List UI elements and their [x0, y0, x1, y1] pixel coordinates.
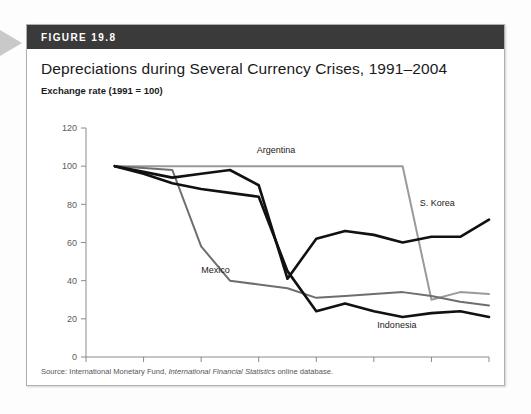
series-label-s-korea: S. Korea	[420, 198, 455, 208]
chart-plot-area: 0204060801001201990199219941996199820002…	[27, 97, 506, 365]
margin-arrow-marker	[0, 30, 22, 56]
y-tick-label: 0	[72, 352, 77, 362]
figure-container: FIGURE 19.8 Depreciations during Several…	[26, 24, 505, 386]
y-axis-note: Exchange rate (1991 = 100)	[41, 85, 504, 96]
figure-source-note: Source: International Monetary Fund, Int…	[41, 367, 333, 376]
y-tick-label: 20	[67, 314, 77, 324]
y-tick-label: 100	[62, 161, 77, 171]
y-tick-label: 120	[62, 123, 77, 133]
figure-header-bar: FIGURE 19.8	[27, 25, 504, 49]
series-line-argentina	[115, 166, 489, 300]
y-tick-label: 60	[67, 238, 77, 248]
series-label-mexico: Mexico	[201, 265, 230, 275]
line-chart: 0204060801001201990199219941996199820002…	[27, 97, 506, 365]
source-italic-title: International Financial Statistics	[168, 367, 275, 376]
series-label-argentina: Argentina	[257, 145, 296, 155]
source-prefix: Source: International Monetary Fund,	[41, 367, 168, 376]
source-suffix: online database.	[275, 367, 333, 376]
y-tick-label: 80	[67, 200, 77, 210]
figure-number-label: FIGURE 19.8	[41, 32, 116, 43]
figure-title: Depreciations during Several Currency Cr…	[41, 60, 504, 78]
series-label-indonesia: Indonesia	[377, 320, 416, 330]
y-tick-label: 40	[67, 276, 77, 286]
series-line-indonesia	[115, 166, 489, 317]
